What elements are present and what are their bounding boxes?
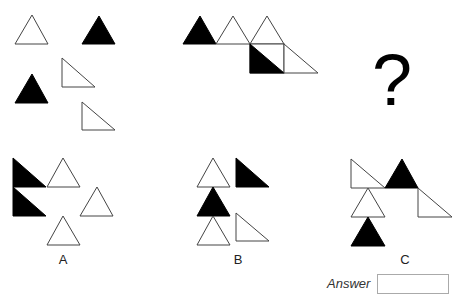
black-triangle [351, 217, 385, 246]
answer-label: Answer [327, 276, 370, 291]
outline-triangle [80, 187, 113, 216]
black-triangle [82, 16, 115, 44]
outline-right-triangle [62, 58, 95, 87]
outline-triangle [250, 16, 284, 44]
option-a-label[interactable]: A [53, 252, 73, 267]
panel-1 [15, 15, 115, 130]
black-triangle [385, 159, 418, 188]
black-triangle [197, 187, 230, 216]
black-triangle [15, 74, 48, 103]
option-a-figure [13, 158, 113, 245]
outline-right-triangle [351, 159, 385, 188]
outline-right-triangle [82, 102, 115, 130]
outline-triangle [197, 158, 230, 187]
black-right-triangle [236, 158, 269, 187]
black-triangle [183, 16, 216, 44]
question-mark: ? [372, 44, 412, 116]
option-c-label[interactable]: C [395, 252, 415, 267]
outline-triangle [47, 158, 80, 187]
black-right-triangle [13, 158, 46, 187]
outline-right-triangle [236, 213, 269, 241]
outline-triangle [351, 188, 385, 217]
black-right-triangle [13, 187, 46, 216]
outline-right-triangle [284, 44, 318, 73]
panel-2 [183, 16, 318, 73]
answer-input[interactable] [377, 274, 449, 294]
outline-right-triangle [418, 188, 452, 217]
outline-triangle [47, 216, 80, 245]
outline-triangle [216, 16, 250, 44]
outline-triangle [197, 216, 230, 245]
option-c-figure [351, 159, 452, 246]
option-b-figure [197, 158, 269, 245]
option-b-label[interactable]: B [228, 252, 248, 267]
outline-triangle [15, 15, 48, 44]
